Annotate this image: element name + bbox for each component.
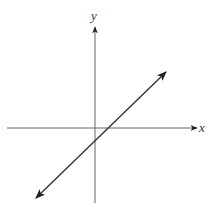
coordinate-plane: y x	[0, 0, 214, 217]
y-axis-label: y	[89, 8, 97, 23]
graphed-line	[36, 72, 166, 198]
x-axis-label: x	[198, 120, 205, 135]
